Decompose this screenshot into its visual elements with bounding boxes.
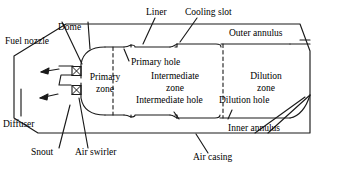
label-intermediate-zone-line1: Intermediate <box>136 71 214 81</box>
label-air-casing: Air casing <box>193 152 232 162</box>
liner-top-segment-2 <box>131 45 170 47</box>
label-diffuser: Diffuser <box>3 119 34 129</box>
leader-cooling-slot <box>180 18 197 42</box>
label-liner: Liner <box>146 7 167 17</box>
air-swirler-lower <box>72 86 81 95</box>
label-dilution-hole: Dilution hole <box>219 95 269 105</box>
label-primary-zone-line1: Primary <box>85 72 125 82</box>
label-air-swirler: Air swirler <box>75 147 116 157</box>
label-intermediate-zone-line2: zone <box>136 83 214 93</box>
label-primary-zone-line2: zone <box>85 84 125 94</box>
leader-liner <box>143 18 155 44</box>
label-inner-annulus: Inner annulus <box>228 123 280 133</box>
label-dilution-zone-line1: Dilution <box>236 71 296 81</box>
label-snout: Snout <box>31 147 53 157</box>
cooling-slot-overlap-3 <box>124 115 131 117</box>
label-fuel-nozzle: Fuel nozzle <box>5 36 49 46</box>
cooling-slot-overlap-1 <box>124 45 131 47</box>
liner-top-segment-3 <box>177 44 221 47</box>
liner-bottom-segment-3 <box>177 115 220 118</box>
snout-outline <box>59 66 73 85</box>
leader-primary-hole <box>124 49 129 61</box>
leader-air-casing <box>196 134 208 153</box>
label-outer-annulus: Outer annulus <box>229 28 283 38</box>
label-cooling-slot: Cooling slot <box>185 7 232 17</box>
fuel-nozzle-arrowhead <box>41 68 49 74</box>
label-dilution-zone-line2: zone <box>236 83 296 93</box>
label-primary-hole: Primary hole <box>131 57 180 67</box>
label-intermediate-hole: Intermediate hole <box>136 95 203 105</box>
leader-dome <box>88 22 90 49</box>
snout-air-arrowhead <box>40 94 48 100</box>
label-dome: Dome <box>58 22 81 32</box>
air-swirler-upper <box>72 67 81 76</box>
liner-bottom-segment-2 <box>131 115 170 117</box>
leader-snout <box>59 105 70 148</box>
combustor-diagram: Fuel nozzle Dome Liner Cooling slot Oute… <box>0 0 347 169</box>
